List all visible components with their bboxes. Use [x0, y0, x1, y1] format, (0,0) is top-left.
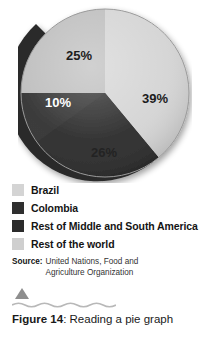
figure-caption-block: Figure 14: Reading a pie graph: [12, 288, 202, 325]
figure-number: Figure 14: [12, 313, 63, 325]
legend-label-colombia: Colombia: [31, 202, 78, 214]
legend-label-rest-middle-south-america: Rest of Middle and South America: [31, 220, 198, 232]
legend-item-rest-middle-south-america: Rest of Middle and South America: [12, 217, 208, 234]
pie-value-brazil: 39%: [142, 91, 168, 106]
legend-swatch-rest-of-world: [12, 238, 24, 250]
legend-item-colombia: Colombia: [12, 199, 208, 216]
legend-item-rest-of-world: Rest of the world: [12, 235, 208, 252]
pie-value-colombia: 26%: [91, 145, 117, 160]
chart-legend: Brazil Colombia Rest of Middle and South…: [12, 181, 208, 253]
legend-swatch-colombia: [12, 202, 24, 214]
page-title: Figure 14: Reading a pie graph: [12, 313, 202, 325]
triangle-up-icon: [15, 288, 29, 299]
legend-label-rest-of-world: Rest of the world: [31, 238, 114, 250]
legend-swatch-rest-middle-south-america: [12, 220, 24, 232]
pie-graph: 39% 26% 10% 25%: [18, 5, 192, 183]
pie-chart-figure: 39% 26% 10% 25%: [0, 0, 210, 180]
wavy-line-icon: [12, 301, 116, 308]
pie-value-rest-middle-south-america: 10%: [45, 95, 71, 110]
legend-item-brazil: Brazil: [12, 181, 208, 198]
legend-label-brazil: Brazil: [31, 184, 59, 196]
source-label: Source:: [12, 256, 42, 267]
pie-value-rest-of-world: 25%: [66, 48, 92, 63]
figure-title: Reading a pie graph: [70, 313, 174, 325]
source-text: United Nations, Food and Agriculture Org…: [45, 256, 177, 278]
legend-swatch-brazil: [12, 184, 24, 196]
source-note: Source: United Nations, Food and Agricul…: [12, 256, 202, 278]
